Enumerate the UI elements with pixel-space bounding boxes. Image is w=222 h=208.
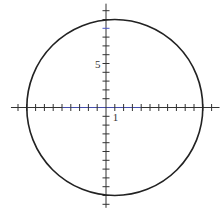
circle-plot: 1 5	[0, 0, 222, 208]
x-tick-label-1: 1	[113, 111, 119, 123]
y-tick-label-5: 5	[95, 58, 101, 70]
